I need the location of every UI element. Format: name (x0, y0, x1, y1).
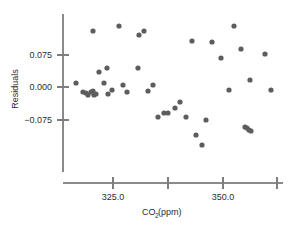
x-axis-title: CO 2 (ppm) (142, 207, 182, 219)
plot-canvas: 0.075 0.000 −0.075 325.0 350.0 CO 2 (ppm… (0, 0, 297, 229)
data-point (177, 99, 182, 104)
data-point (90, 28, 95, 33)
data-point (135, 65, 140, 70)
data-point (105, 91, 110, 96)
data-point (145, 88, 150, 93)
x-axis-title-main: CO (142, 207, 156, 217)
data-point (93, 91, 98, 96)
y-axis-title: Residuals (10, 69, 20, 109)
data-point (109, 87, 114, 92)
data-point (141, 28, 146, 33)
y-tick-label-0: 0.075 (29, 50, 52, 60)
data-point (248, 128, 253, 133)
data-point (124, 89, 129, 94)
data-point (172, 105, 177, 110)
x-axis-title-tail: (ppm) (158, 207, 182, 217)
data-points-group (73, 23, 273, 147)
data-point (193, 132, 198, 137)
data-point (189, 38, 194, 43)
data-point (155, 114, 160, 119)
data-point (136, 32, 141, 37)
data-point (199, 142, 204, 147)
data-point (247, 77, 252, 82)
data-point (96, 69, 101, 74)
x-tick-label-2: 350.0 (212, 192, 235, 202)
data-point (226, 87, 231, 92)
data-point (101, 80, 106, 85)
data-point (262, 51, 267, 56)
data-point (116, 23, 121, 28)
data-point (268, 87, 273, 92)
data-point (209, 39, 214, 44)
x-tick-label-0: 325.0 (102, 192, 125, 202)
scatter-plot-figure: 0.075 0.000 −0.075 325.0 350.0 CO 2 (ppm… (0, 0, 297, 229)
data-point (150, 82, 155, 87)
data-point (165, 110, 170, 115)
y-tick-label-1: 0.000 (29, 82, 52, 92)
data-point (183, 114, 188, 119)
data-point (73, 80, 78, 85)
data-point (231, 23, 236, 28)
y-tick-label-2: −0.075 (24, 115, 52, 125)
data-point (203, 117, 208, 122)
data-point (120, 82, 125, 87)
data-point (104, 65, 109, 70)
data-point (218, 55, 223, 60)
data-point (238, 46, 243, 51)
